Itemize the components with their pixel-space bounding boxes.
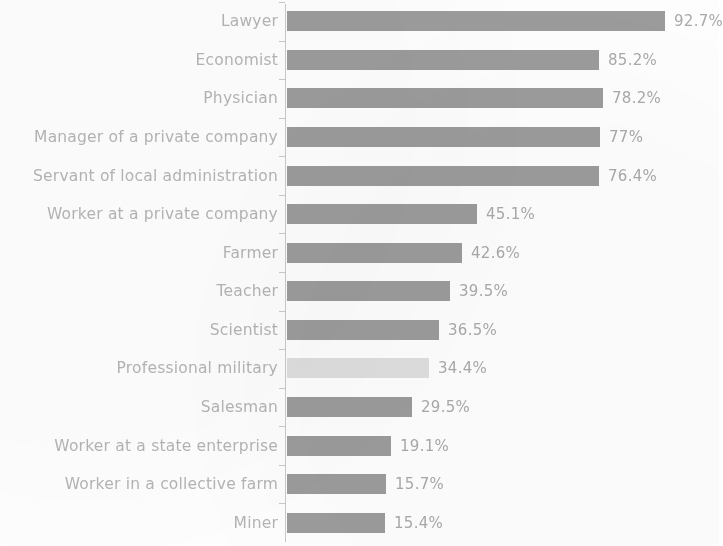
value-label: 45.1%: [486, 205, 535, 223]
value-label: 78.2%: [612, 89, 661, 107]
category-label: Salesman: [201, 398, 278, 416]
category-label: Worker at a state enterprise: [54, 437, 278, 455]
bar: [287, 474, 386, 494]
bar: [287, 50, 599, 70]
bar: [287, 436, 391, 456]
value-label: 15.4%: [394, 514, 443, 532]
category-label: Professional military: [117, 359, 278, 377]
category-label: Physician: [203, 89, 278, 107]
bar-row: Worker at a state enterprise19.1%: [0, 426, 719, 465]
value-label: 36.5%: [448, 321, 497, 339]
bar: [287, 127, 600, 147]
value-label: 77%: [609, 128, 643, 146]
value-label: 85.2%: [608, 51, 657, 69]
bar-row: Physician78.2%: [0, 79, 719, 118]
value-label: 29.5%: [421, 398, 470, 416]
category-label: Lawyer: [221, 12, 278, 30]
bar: [287, 397, 412, 417]
category-label: Manager of a private company: [34, 128, 278, 146]
bar: [287, 88, 603, 108]
category-label: Economist: [196, 51, 278, 69]
category-label: Miner: [234, 514, 278, 532]
bar: [287, 11, 665, 31]
bar-row: Manager of a private company77%: [0, 118, 719, 157]
category-label: Worker in a collective farm: [65, 475, 278, 493]
bar-row: Salesman29.5%: [0, 388, 719, 427]
bar-row: Lawyer92.7%: [0, 2, 719, 41]
bar: [287, 281, 450, 301]
bar-row: Worker at a private company45.1%: [0, 195, 719, 234]
bar: [287, 513, 385, 533]
value-label: 19.1%: [400, 437, 449, 455]
bar: [287, 243, 462, 263]
value-label: 15.7%: [395, 475, 444, 493]
value-label: 76.4%: [608, 167, 657, 185]
bar-row: Worker in a collective farm15.7%: [0, 465, 719, 504]
bar: [287, 166, 599, 186]
value-label: 42.6%: [471, 244, 520, 262]
bar: [287, 204, 477, 224]
category-label: Farmer: [223, 244, 278, 262]
value-label: 39.5%: [459, 282, 508, 300]
bar: [287, 320, 439, 340]
category-label: Servant of local administration: [33, 167, 278, 185]
bar-row: Servant of local administration76.4%: [0, 156, 719, 195]
category-label: Scientist: [210, 321, 278, 339]
value-label: 34.4%: [438, 359, 487, 377]
value-label: 92.7%: [674, 12, 723, 30]
bar-row: Economist85.2%: [0, 41, 719, 80]
bar-highlighted: [287, 358, 429, 378]
category-label: Worker at a private company: [47, 205, 278, 223]
bar-row: Professional military34.4%: [0, 349, 719, 388]
bar-row: Farmer42.6%: [0, 233, 719, 272]
bar-row: Teacher39.5%: [0, 272, 719, 311]
bar-row: Scientist36.5%: [0, 311, 719, 350]
category-label: Teacher: [216, 282, 278, 300]
bar-row: Miner15.4%: [0, 503, 719, 542]
